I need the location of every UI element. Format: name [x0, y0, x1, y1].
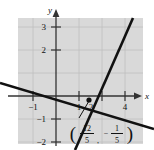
annotation-x-numerator: 12 [83, 124, 91, 133]
annotation-y-numerator: 1 [115, 124, 119, 133]
y-axis-arrow [53, 9, 60, 17]
x-tick-label-4: 4 [123, 102, 128, 112]
y-tick-label--2: −2 [36, 137, 46, 147]
annotation-x-denominator: 5 [85, 136, 89, 145]
x-tick-label-2: 2 [89, 102, 94, 112]
annotation-close-paren: ) [127, 123, 133, 145]
x-axis-label: x [144, 91, 149, 101]
y-tick-label--1: −1 [36, 114, 46, 124]
y-tick-label-3: 3 [42, 22, 47, 32]
graph-figure: −1 1 2 4 3 2 −1 −2 x y ( 12 5 , − 1 5 ) [0, 0, 154, 150]
y-tick-label-2: 2 [42, 45, 47, 55]
annotation-open-paren: ( [70, 123, 76, 145]
annotation-y-denominator: 5 [115, 136, 119, 145]
annotation-comma: , [97, 136, 99, 145]
y-axis-label: y [47, 5, 52, 15]
coordinate-plane-svg: −1 1 2 4 3 2 −1 −2 x y ( 12 5 , − 1 5 ) [0, 0, 154, 150]
annotation-minus-sign: − [104, 129, 109, 138]
x-tick-label--1: −1 [28, 102, 38, 112]
x-tick-label-1: 1 [77, 102, 82, 112]
